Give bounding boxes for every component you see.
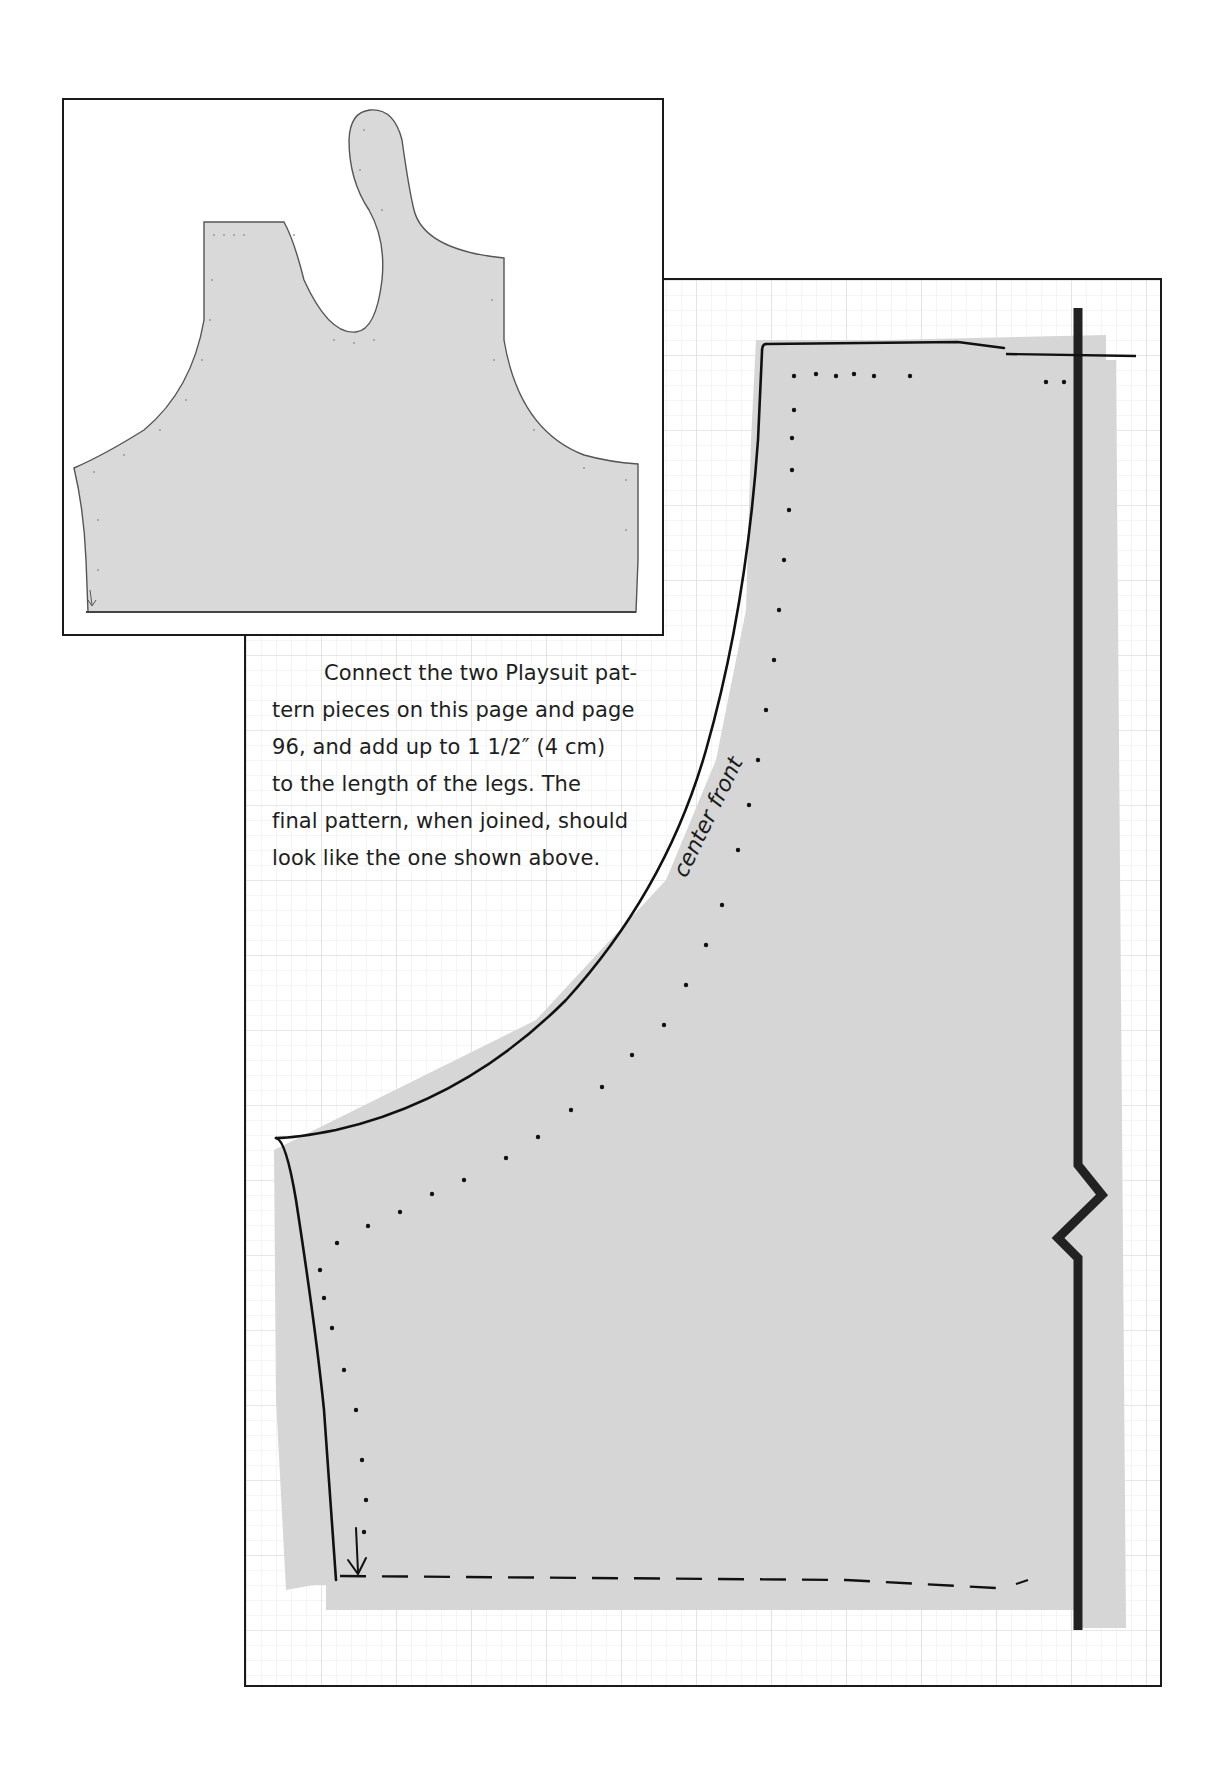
preview-drawing bbox=[64, 100, 662, 634]
preview-shape bbox=[74, 110, 638, 612]
instruction-line: 96, and add up to 1 1/2″ (4 cm) bbox=[272, 729, 722, 766]
instruction-line: Connect the two Playsuit pat- bbox=[272, 655, 722, 692]
instruction-text: Connect the two Playsuit pat- tern piece… bbox=[272, 655, 722, 877]
instruction-line: to the length of the legs. The bbox=[272, 766, 722, 803]
completed-pattern-preview bbox=[62, 98, 664, 636]
instruction-line: final pattern, when joined, should bbox=[272, 803, 722, 840]
instruction-line: tern pieces on this page and page bbox=[272, 692, 722, 729]
instruction-line: look like the one shown above. bbox=[272, 840, 722, 877]
